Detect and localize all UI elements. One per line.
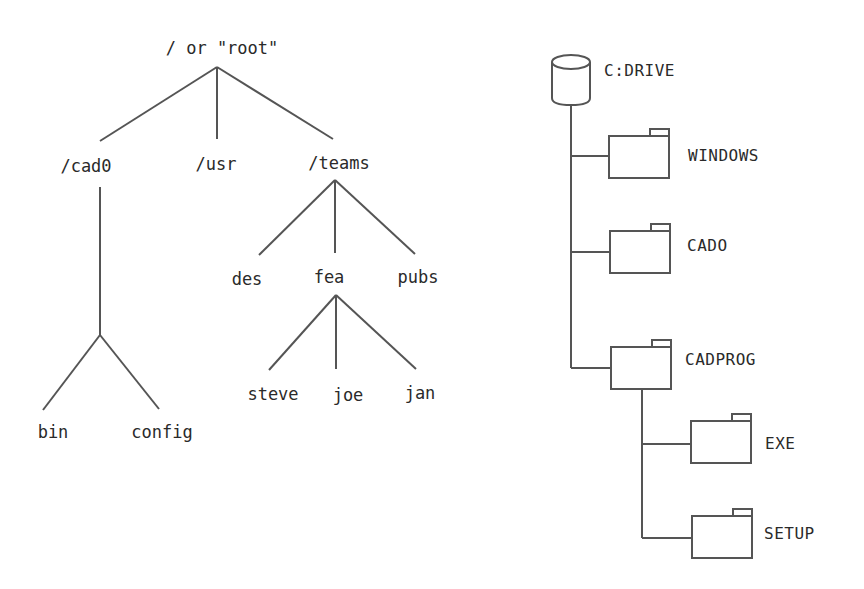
dir-usr-label: /usr bbox=[196, 156, 237, 173]
dir-jan-label: jan bbox=[405, 385, 436, 402]
dir-des-label: des bbox=[232, 271, 263, 288]
dir-pubs-label: pubs bbox=[398, 269, 439, 286]
folder-exe-label: EXE bbox=[765, 436, 795, 452]
tree-connector-lines bbox=[0, 0, 864, 589]
dir-cad0-label: /cad0 bbox=[60, 158, 111, 175]
dir-joe-label: joe bbox=[333, 387, 364, 404]
folder-icon bbox=[610, 338, 674, 392]
drive-label: C:DRIVE bbox=[604, 63, 675, 79]
folder-cadprog-label: CADPROG bbox=[685, 352, 756, 368]
dir-config-label: config bbox=[131, 424, 192, 441]
folder-icon bbox=[690, 412, 754, 466]
folder-windows-label: WINDOWS bbox=[688, 148, 759, 164]
dir-teams-label: /teams bbox=[308, 155, 369, 172]
disk-drive-icon bbox=[549, 52, 593, 108]
folder-icon bbox=[691, 507, 755, 561]
dir-steve-label: steve bbox=[247, 386, 298, 403]
folder-setup-label: SETUP bbox=[764, 526, 815, 542]
folder-icon bbox=[609, 222, 673, 276]
dir-fea-label: fea bbox=[314, 269, 345, 286]
folder-icon bbox=[608, 127, 672, 181]
dir-bin-label: bin bbox=[38, 424, 69, 441]
folder-cado-label: CADO bbox=[687, 238, 728, 254]
root-label: / or "root" bbox=[166, 40, 279, 57]
